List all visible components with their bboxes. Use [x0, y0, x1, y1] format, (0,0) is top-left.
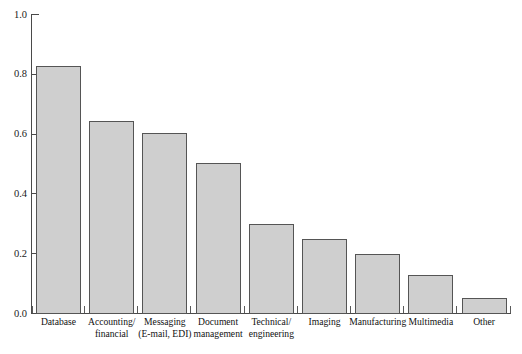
category-label: Other — [444, 316, 522, 328]
y-tick-label: 0.6 — [14, 129, 27, 140]
bar — [462, 298, 507, 314]
y-tick-label: 0.8 — [14, 69, 27, 80]
category-label-line1: Imaging — [309, 316, 341, 327]
bar — [408, 275, 453, 314]
category-label-line2: engineering — [231, 328, 311, 340]
y-tick-label: 0.2 — [14, 248, 27, 259]
y-tick-label: 1.0 — [14, 9, 27, 20]
bar-chart: 1.00.80.60.40.20.0 DatabaseAccounting/fi… — [0, 0, 522, 354]
bar — [142, 133, 187, 314]
y-tick-label: 0.4 — [14, 189, 27, 200]
bar — [302, 239, 347, 314]
bar — [355, 254, 400, 314]
bar — [36, 66, 81, 314]
bar — [196, 163, 241, 314]
category-labels: DatabaseAccounting/financialMessaging(E-… — [0, 316, 522, 354]
bars-layer — [32, 14, 512, 314]
bar — [89, 121, 134, 314]
bar — [249, 224, 294, 314]
category-label-line1: Other — [473, 316, 495, 327]
